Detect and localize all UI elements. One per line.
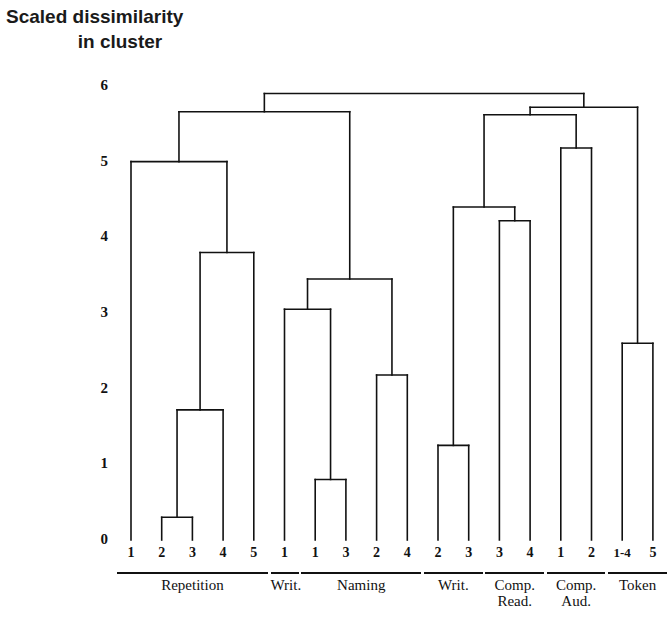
group-7: Token <box>608 572 667 593</box>
y-tick-6: 6 <box>82 77 108 94</box>
group-rule-6 <box>547 572 606 574</box>
leaf-label-2: 3 <box>180 545 204 561</box>
group-label-5-line2: Read. <box>485 593 544 609</box>
group-5: Comp.Read. <box>485 572 544 609</box>
leaf-label-11: 3 <box>457 545 481 561</box>
leaf-label-0: 1 <box>119 545 143 561</box>
group-1: Repetition <box>117 572 268 593</box>
leaf-label-5: 1 <box>273 545 297 561</box>
dendrogram-lines <box>131 94 653 540</box>
group-rule-2 <box>271 572 299 574</box>
y-tick-4: 4 <box>82 228 108 245</box>
leaf-label-9: 4 <box>395 545 419 561</box>
group-2: Writ. <box>271 572 299 593</box>
leaf-label-6: 1 <box>303 545 327 561</box>
group-label-3: Naming <box>301 577 421 593</box>
leaf-label-17: 5 <box>641 545 665 561</box>
leaf-label-4: 5 <box>242 545 266 561</box>
group-label-7: Token <box>608 577 667 593</box>
group-label-2: Writ. <box>271 577 299 593</box>
leaf-label-10: 2 <box>426 545 450 561</box>
y-tick-2: 2 <box>82 380 108 397</box>
leaf-label-13: 4 <box>518 545 542 561</box>
leaf-label-15: 2 <box>580 545 604 561</box>
y-tick-5: 5 <box>82 153 108 170</box>
group-label-4: Writ. <box>424 577 483 593</box>
y-tick-1: 1 <box>82 455 108 472</box>
group-rule-5 <box>485 572 544 574</box>
group-4: Writ. <box>424 572 483 593</box>
group-label-1: Repetition <box>117 577 268 593</box>
leaf-label-16: 1-4 <box>605 545 639 561</box>
leaf-label-1: 2 <box>150 545 174 561</box>
group-label-5: Comp. <box>485 577 544 593</box>
leaf-label-8: 2 <box>365 545 389 561</box>
group-rule-4 <box>424 572 483 574</box>
leaf-label-7: 3 <box>334 545 358 561</box>
y-tick-0: 0 <box>82 531 108 548</box>
group-6: Comp.Aud. <box>547 572 606 609</box>
group-3: Naming <box>301 572 421 593</box>
group-rule-3 <box>301 572 421 574</box>
group-label-6-line2: Aud. <box>547 593 606 609</box>
leaf-label-12: 3 <box>487 545 511 561</box>
group-rule-7 <box>608 572 667 574</box>
leaf-label-14: 1 <box>549 545 573 561</box>
group-rule-1 <box>117 572 268 574</box>
group-label-6: Comp. <box>547 577 606 593</box>
y-tick-3: 3 <box>82 304 108 321</box>
leaf-label-3: 4 <box>211 545 235 561</box>
